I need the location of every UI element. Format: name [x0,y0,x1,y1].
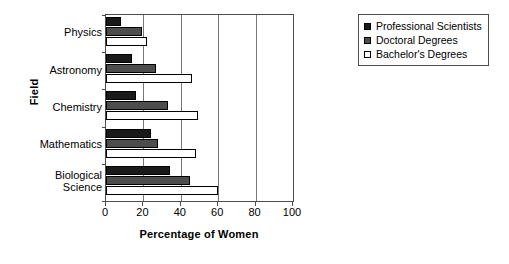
y-axis-tick-label: Chemistry [24,101,102,114]
bar [106,17,121,26]
y-axis-tick-label: Astronomy [24,64,102,77]
x-axis-title: Percentage of Women [105,228,293,240]
y-axis-tick-label: BiologicalScience [24,169,102,194]
bar-group [106,89,293,126]
bar-chart: Field PhysicsAstronomyChemistryMathemati… [0,0,509,264]
legend-label: Professional Scientists [376,19,482,33]
bar [106,64,156,73]
legend-swatch-icon [364,23,371,30]
y-axis-tick [102,127,106,128]
x-axis-tick-labels: 020406080100 [0,206,400,222]
bar [106,54,132,63]
bar [106,176,190,185]
x-axis-tick-label: 100 [272,206,312,218]
legend-item: Doctoral Degrees [364,33,482,47]
x-axis-tick-label: 80 [235,206,275,218]
bar [106,166,170,175]
bar-group [106,164,293,201]
bar [106,27,142,36]
y-axis-tick [102,164,106,165]
x-axis-tick-label: 0 [85,206,125,218]
bar [106,37,147,46]
legend-swatch-icon [364,37,371,44]
y-axis-tick [102,15,106,16]
y-axis-tick [102,52,106,53]
x-axis-tick-label: 60 [197,206,237,218]
y-axis-tick [102,89,106,90]
x-axis-tick-label: 20 [122,206,162,218]
bar [106,149,196,158]
bar [106,74,192,83]
bar-group [106,15,293,52]
bar [106,101,168,110]
bar [106,91,136,100]
bar [106,186,218,195]
x-axis-tick-label: 40 [160,206,200,218]
legend-swatch-icon [364,51,371,58]
legend-item: Bachelor's Degrees [364,47,482,61]
bar-group [106,52,293,89]
legend-label: Doctoral Degrees [376,33,458,47]
y-axis-tick-label: Mathematics [24,138,102,151]
bar-group [106,127,293,164]
y-axis-tick-label: Physics [24,26,102,39]
bar [106,111,198,120]
chart-legend: Professional ScientistsDoctoral DegreesB… [358,14,489,66]
bar [106,139,158,148]
bar [106,129,151,138]
y-axis-tick-labels: PhysicsAstronomyChemistryMathematicsBiol… [24,14,102,200]
plot-area [105,14,294,202]
legend-item: Professional Scientists [364,19,482,33]
legend-label: Bachelor's Degrees [376,47,467,61]
